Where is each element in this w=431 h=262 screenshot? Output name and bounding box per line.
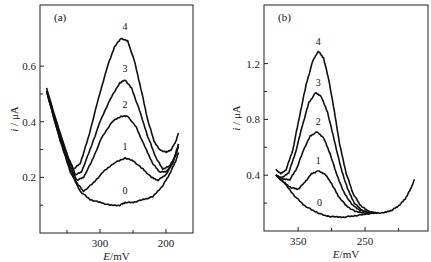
curve-label-0: 0	[317, 197, 322, 208]
curve-2	[47, 91, 179, 181]
y-tick-label: 0.6	[22, 60, 36, 72]
curve-4	[47, 39, 179, 169]
chart-panel-a: 0.20.40.6300200E/mVi / μA(a)01234	[8, 5, 193, 262]
curve-3	[276, 93, 375, 213]
panel-label: (a)	[54, 11, 67, 24]
x-tick-label: 250	[357, 235, 374, 247]
curve-label-4: 4	[316, 36, 321, 47]
curve-label-3: 3	[316, 77, 321, 88]
curve-label-3: 3	[123, 63, 128, 74]
curve-label-2: 2	[316, 116, 321, 127]
y-axis-label: i / μA	[230, 105, 242, 131]
x-tick-label: 200	[158, 237, 175, 249]
curve-1	[47, 94, 178, 192]
chart-panel-b: 0.40.81.2350250E/mVi / μA(b)01234	[230, 5, 428, 260]
curve-4	[276, 52, 379, 214]
y-tick-label: 0.8	[246, 113, 260, 125]
plot-frame	[264, 5, 428, 231]
y-tick-label: 0.4	[246, 169, 260, 181]
x-tick-label: 300	[92, 237, 109, 249]
panel-label: (b)	[278, 11, 291, 24]
x-axis-label: E/mV	[332, 248, 359, 260]
curve-label-1: 1	[123, 141, 128, 152]
curve-label-1: 1	[316, 155, 321, 166]
figure: 0.20.40.6300200E/mVi / μA(a)012340.40.81…	[0, 0, 431, 262]
y-tick-label: 0.4	[22, 116, 36, 128]
curve-label-0: 0	[123, 185, 128, 196]
y-tick-label: 1.2	[246, 58, 260, 70]
curve-label-4: 4	[123, 21, 128, 32]
y-tick-label: 0.2	[22, 171, 36, 183]
x-axis-label: E/mV	[102, 250, 129, 262]
x-tick-label: 350	[290, 235, 307, 247]
curve-label-2: 2	[123, 99, 128, 110]
curve-2	[276, 132, 375, 213]
y-axis-label: i / μA	[8, 106, 20, 132]
